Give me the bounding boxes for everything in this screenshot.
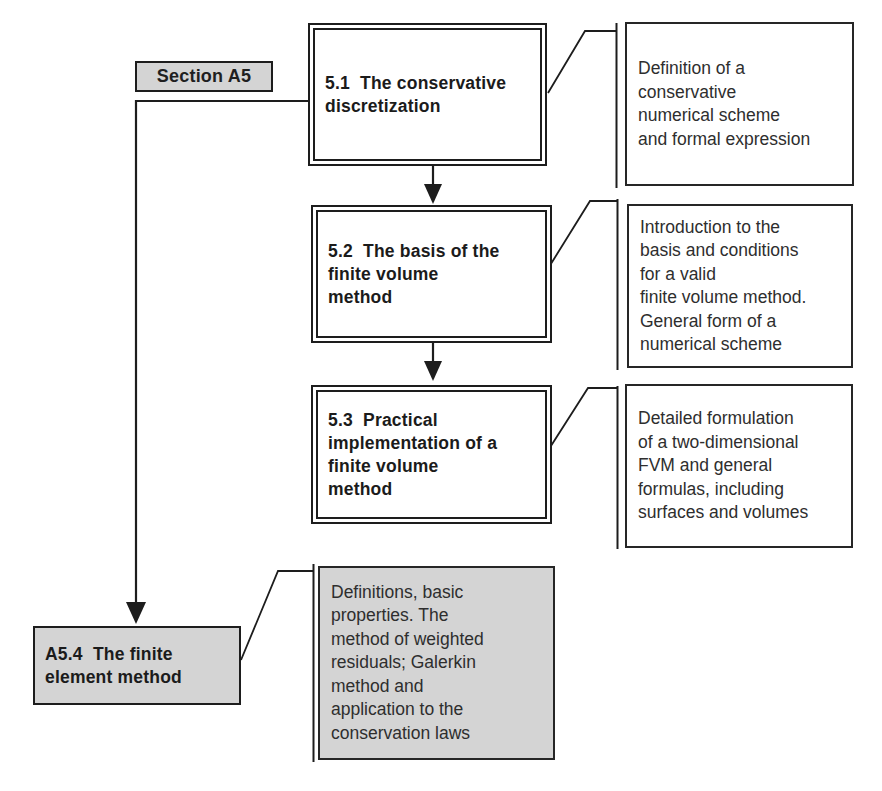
note-5-1-text: Definition of a conservative numerical s… xyxy=(638,57,810,151)
note-5-3: Detailed formulation of a two-dimensiona… xyxy=(625,384,853,548)
arrowhead-into-52-icon xyxy=(424,184,442,204)
box-a5-4: A5.4 The finite element method xyxy=(33,626,241,705)
arrowhead-into-53-icon xyxy=(424,361,442,381)
leader-a54-note xyxy=(241,571,314,660)
box-5-1-inner-frame: 5.1 The conservative discretization xyxy=(313,28,542,161)
note-5-3-text: Detailed formulation of a two-dimensiona… xyxy=(638,407,808,525)
box-5-1: 5.1 The conservative discretization xyxy=(308,23,547,166)
leader-53-note xyxy=(549,388,618,449)
box-a5-4-title: A5.4 The finite element method xyxy=(35,643,182,689)
box-5-2-title: 5.2 The basis of the finite volume metho… xyxy=(318,240,499,309)
box-5-2: 5.2 The basis of the finite volume metho… xyxy=(311,205,552,343)
flow-diagram-canvas: Section A5 5.1 The conservative discreti… xyxy=(0,0,882,791)
note-5-2-text: Introduction to the basis and conditions… xyxy=(640,216,806,357)
note-a5-4-text: Definitions, basic properties. The metho… xyxy=(331,581,484,746)
connector-section-drop-line xyxy=(136,101,308,604)
box-5-1-title: 5.1 The conservative discretization xyxy=(315,72,506,118)
note-5-1: Definition of a conservative numerical s… xyxy=(625,22,854,186)
arrowhead-into-a54-icon xyxy=(126,602,146,624)
note-5-2: Introduction to the basis and conditions… xyxy=(627,204,853,368)
box-5-3-inner-frame: 5.3 Practical implementation of a finite… xyxy=(316,390,547,519)
box-5-3: 5.3 Practical implementation of a finite… xyxy=(311,385,552,524)
box-5-3-title: 5.3 Practical implementation of a finite… xyxy=(318,409,497,501)
section-a5-label: Section A5 xyxy=(135,61,273,92)
leader-52-note xyxy=(549,201,618,267)
section-a5-label-text: Section A5 xyxy=(157,66,251,87)
note-a5-4: Definitions, basic properties. The metho… xyxy=(318,566,555,760)
box-5-2-inner-frame: 5.2 The basis of the finite volume metho… xyxy=(316,210,547,338)
leader-51-note xyxy=(548,31,617,93)
